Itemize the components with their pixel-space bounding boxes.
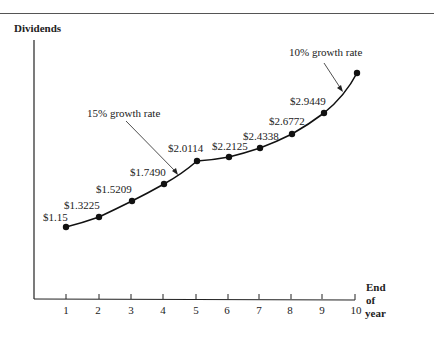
data-point <box>194 158 200 164</box>
tick-label: 3 <box>128 304 134 316</box>
x-tick-labels: 1 2 3 4 5 6 7 8 9 10 <box>63 304 362 316</box>
data-point <box>129 198 135 204</box>
point-label: $1.7490 <box>130 166 166 178</box>
data-point <box>96 214 102 220</box>
arrowhead-icon <box>337 85 343 92</box>
y-axis-label: Dividends <box>14 22 62 34</box>
svg-text:year: year <box>365 307 386 319</box>
tick-label: 9 <box>319 304 325 316</box>
tick-label: 2 <box>95 304 101 316</box>
tick-label: 6 <box>224 304 230 316</box>
data-point <box>321 110 327 116</box>
point-label: $1.5209 <box>96 183 132 195</box>
x-axis <box>34 299 355 300</box>
data-point <box>63 224 69 230</box>
tick-label: 10 <box>351 304 363 316</box>
tick-label: 5 <box>193 304 199 316</box>
point-label: $2.0114 <box>168 142 204 154</box>
tick-label: 7 <box>256 304 262 316</box>
annotation-arrow-10 <box>324 63 341 89</box>
point-label: $2.9449 <box>290 95 326 107</box>
data-point <box>257 145 263 151</box>
data-point <box>289 131 295 137</box>
point-label: $1.15 <box>43 211 68 223</box>
dividend-growth-chart: 1 2 3 4 5 6 7 8 9 10 Dividends End of ye… <box>0 0 434 342</box>
annotation-10-percent: 10% growth rate <box>289 46 362 58</box>
annotation-15-percent: 15% growth rate <box>87 107 160 119</box>
data-point <box>226 154 232 160</box>
data-point <box>161 181 167 187</box>
point-label: $2.6772 <box>269 115 305 127</box>
point-label: $2.4338 <box>243 130 279 142</box>
tick-label: 1 <box>63 304 69 316</box>
svg-text:of: of <box>366 294 376 306</box>
x-axis-label: End of year <box>365 281 386 319</box>
tick-label: 8 <box>287 304 293 316</box>
data-point <box>354 70 360 76</box>
tick-label: 4 <box>160 304 166 316</box>
point-labels: $1.15 $1.3225 $1.5209 $1.7490 $2.0114 $2… <box>43 95 326 223</box>
svg-text:End: End <box>366 281 386 293</box>
point-label: $1.3225 <box>64 199 100 211</box>
